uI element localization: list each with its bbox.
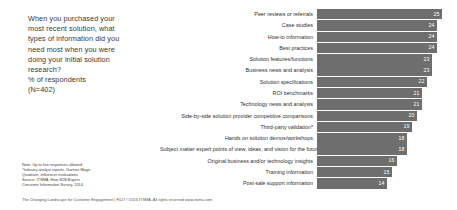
category-label: Technology news and analysis — [160, 101, 317, 107]
bar: 24 — [317, 32, 437, 42]
chart-row: Training information15 — [160, 167, 452, 177]
bar-chart: Peer reviews or referrals25Case studies2… — [160, 9, 452, 189]
chart-row: Business news and analysis23 — [160, 65, 452, 75]
category-label: Business news and analysis — [160, 67, 317, 73]
question-line: doing your initial solution — [28, 55, 158, 65]
bar: 19 — [317, 122, 412, 132]
bar-value-label: 21 — [414, 102, 422, 107]
bar: 18 — [317, 144, 407, 154]
bar: 16 — [317, 156, 397, 166]
chart-row: Subject matter expert points of view, id… — [160, 144, 452, 154]
bar-value-label: 22 — [419, 79, 427, 84]
category-label: Solution features/functions — [160, 56, 317, 62]
sample-size: (N=402) — [28, 85, 158, 95]
category-label: Original business and/or technology insi… — [160, 158, 317, 164]
bar-value-label: 23 — [424, 68, 432, 73]
bar-track: 18 — [317, 133, 452, 143]
category-label: Case studies — [160, 22, 317, 28]
bar-value-label: 19 — [404, 124, 412, 129]
category-label: Training information — [160, 169, 317, 175]
bar: 22 — [317, 77, 427, 87]
bar: 23 — [317, 65, 432, 75]
bar-value-label: 21 — [414, 91, 422, 96]
bar-track: 20 — [317, 111, 452, 121]
chart-row: Solution features/functions23 — [160, 54, 452, 64]
bar: 23 — [317, 54, 432, 64]
question-prompt: When you purchased your most recent solu… — [28, 14, 158, 96]
category-label: Solution specifications — [160, 79, 317, 85]
source-line: Consume Information Survey, 2014 — [22, 182, 152, 187]
chart-row: Best practices24 — [160, 43, 452, 53]
chart-row: Solution specifications22 — [160, 77, 452, 87]
bar-track: 25 — [317, 9, 452, 19]
bar-track: 23 — [317, 65, 452, 75]
category-label: Peer reviews or referrals — [160, 11, 317, 17]
category-label: Hands on solution demos/workshops — [160, 135, 317, 141]
bar-value-label: 18 — [399, 147, 407, 152]
bar-value-label: 18 — [399, 136, 407, 141]
bar: 21 — [317, 99, 422, 109]
slide-footer: The Changing Landscape for Customer Enga… — [22, 197, 442, 203]
category-label: Best practices — [160, 45, 317, 51]
bar-track: 19 — [317, 122, 452, 132]
chart-row: Peer reviews or referrals25 — [160, 9, 452, 19]
category-label: Post-sale support information — [160, 180, 317, 186]
category-label: Subject matter expert points of view, id… — [160, 146, 317, 152]
bar-track: 24 — [317, 43, 452, 53]
bar-track: 21 — [317, 88, 452, 98]
bar-track: 15 — [317, 167, 452, 177]
bar: 24 — [317, 43, 437, 53]
chart-row: Side-by-side solution provider competiti… — [160, 111, 452, 121]
bar: 15 — [317, 167, 392, 177]
bar: 21 — [317, 88, 422, 98]
chart-row: Technology news and analysis21 — [160, 99, 452, 109]
chart-row: Case studies24 — [160, 20, 452, 30]
bar-track: 14 — [317, 178, 452, 188]
category-label: ROI benchmarks — [160, 90, 317, 96]
chart-row: Hands on solution demos/workshops18 — [160, 133, 452, 143]
bar-track: 21 — [317, 99, 452, 109]
question-line: When you purchased your — [28, 14, 158, 24]
question-line: need most when you were — [28, 45, 158, 55]
bar-value-label: 23 — [424, 57, 432, 62]
chart-row: Third-party validation*19 — [160, 122, 452, 132]
chart-row: Post-sale support information14 — [160, 178, 452, 188]
bar: 20 — [317, 111, 417, 121]
bar-value-label: 16 — [389, 158, 397, 163]
bar-value-label: 24 — [429, 34, 437, 39]
question-line: types of information did you — [28, 34, 158, 44]
chart-row: ROI benchmarks21 — [160, 88, 452, 98]
bar-track: 22 — [317, 77, 452, 87]
bar-value-label: 14 — [379, 181, 387, 186]
chart-row: Original business and/or technology insi… — [160, 156, 452, 166]
bar: 25 — [317, 9, 442, 19]
bar-value-label: 15 — [384, 170, 392, 175]
respondent-units: % of respondents — [28, 75, 158, 85]
question-line: most recent solution, what — [28, 24, 158, 34]
bar-value-label: 24 — [429, 23, 437, 28]
bar-value-label: 20 — [409, 113, 417, 118]
bar-track: 24 — [317, 20, 452, 30]
chart-row: How-to information24 — [160, 32, 452, 42]
bar-value-label: 24 — [429, 45, 437, 50]
category-label: Third-party validation* — [160, 124, 317, 130]
bar-track: 23 — [317, 54, 452, 64]
category-label: Side-by-side solution provider competiti… — [160, 113, 317, 119]
bar: 18 — [317, 133, 407, 143]
slide-canvas: When you purchased your most recent solu… — [0, 0, 457, 210]
bar: 14 — [317, 178, 387, 188]
bar-value-label: 25 — [434, 12, 442, 17]
category-label: How-to information — [160, 34, 317, 40]
bar-track: 18 — [317, 144, 452, 154]
bar-track: 16 — [317, 156, 452, 166]
question-line: research? — [28, 65, 158, 75]
bar: 24 — [317, 20, 437, 30]
bar-track: 24 — [317, 32, 452, 42]
footnote: Note: Up to five responses allowed *Indu… — [22, 162, 152, 187]
